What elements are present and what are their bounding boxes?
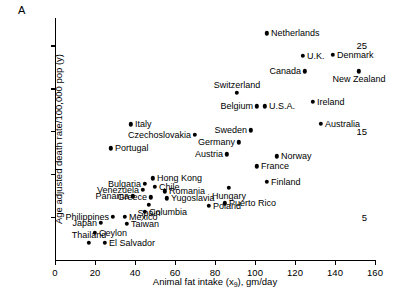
x-tick [135,260,136,265]
data-point-label: New Zealand [332,75,385,84]
data-point-label: U.K. [307,51,325,60]
data-point-label: Australia [325,119,360,128]
data-point [111,215,115,219]
x-axis-title: Animal fat intake (x9), gm/day [55,276,375,287]
data-point [319,121,323,125]
data-point-label: Taiwan [131,219,159,228]
data-point [143,181,147,185]
data-point [301,54,305,58]
data-point [275,154,279,158]
data-point-label: Panama [95,192,129,201]
y-axis-title: Age adjusted death rate/100,000 pop (y) [53,18,67,260]
y-tick-label: 5 [362,212,367,223]
data-point [207,204,211,208]
data-point [109,146,113,150]
x-axis-title-tail: ), gm/day [238,276,278,287]
data-point [225,152,229,156]
data-point-label: Czechoslovakia [128,130,191,139]
data-point-label: Finland [271,177,301,186]
x-tick [95,260,96,265]
plot-area: 51525 020406080100120140160 NetherlandsU… [55,18,375,260]
panel-label: A [18,4,26,16]
data-point [125,222,129,226]
x-axis-title-subscript: 9 [234,281,238,288]
data-point [123,215,127,219]
data-point-label: Puerto Rico [229,199,276,208]
data-point-label: Norway [281,152,312,161]
data-point [149,195,153,199]
x-tick [255,260,256,265]
data-point-label: Italy [135,120,152,129]
data-point [129,122,133,126]
data-point [311,100,315,104]
chart-root: A 51525 020406080100120140160 Netherland… [0,0,396,305]
data-point-label: U.S.A. [269,102,295,111]
data-point-label: Sweden [214,126,247,135]
data-point-label: Denmark [337,50,374,59]
data-point [87,241,91,245]
data-point-label: Germany [198,138,235,147]
data-point [255,164,259,168]
data-point [103,241,107,245]
data-point-label: Japan [72,219,97,228]
data-point [303,69,307,73]
data-point-label: Thailand [72,230,107,239]
data-point-label: Portugal [115,144,149,153]
data-point-label: Ireland [317,98,345,107]
data-point [265,180,269,184]
data-point [263,104,267,108]
data-point [235,90,239,94]
data-point [99,221,103,225]
data-point [193,133,197,137]
x-axis-title-main: Animal fat intake (x [153,276,234,287]
data-point [151,176,155,180]
data-point-label: Netherlands [271,29,320,38]
data-point [249,128,253,132]
data-point [255,104,259,108]
data-point [331,53,335,57]
data-point-label: Yugoslavia [171,194,215,203]
data-point-label: Belgium [220,102,253,111]
x-tick [55,260,56,265]
data-point-label: Switzerland [214,80,261,89]
x-tick [215,260,216,265]
x-tick [375,260,376,265]
data-point-label: Austria [195,150,223,159]
data-point-label: El Salvador [109,238,155,247]
data-point-label: France [261,162,289,171]
data-point [265,31,269,35]
data-point-label: Canada [269,67,301,76]
x-tick [335,260,336,265]
data-point [237,140,241,144]
x-tick [295,260,296,265]
x-tick [175,260,176,265]
data-point [153,185,157,189]
data-point [165,196,169,200]
data-point [163,189,167,193]
